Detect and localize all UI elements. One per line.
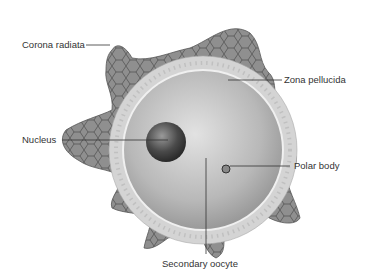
nucleus-shape: [146, 122, 186, 162]
label-zona-pellucida: Zona pellucida: [284, 74, 346, 85]
label-polar-body: Polar body: [294, 160, 339, 171]
label-nucleus: Nucleus: [22, 134, 56, 145]
label-secondary-oocyte: Secondary oocyte: [162, 258, 238, 269]
label-corona-radiata: Corona radiata: [22, 39, 85, 50]
polar-body-shape: [222, 165, 230, 173]
